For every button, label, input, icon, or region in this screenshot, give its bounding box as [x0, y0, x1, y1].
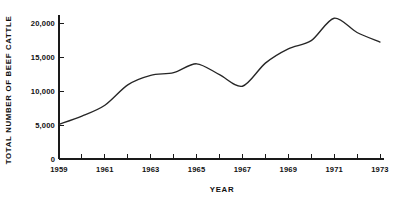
y-axis-tick-marks [59, 23, 64, 125]
x-axis-tick-marks [59, 154, 380, 159]
data-series-line [59, 18, 380, 124]
x-tick-label: 1969 [280, 165, 298, 174]
y-tick-label: 5,000 [35, 121, 55, 130]
y-axis-tick-labels: 05,00010,00015,00020,000 [31, 19, 55, 164]
y-axis-title: TOTAL NUMBER OF BEEF CATTLE [4, 16, 13, 165]
x-axis-tick-labels: 19591961196319651967196919711973 [50, 165, 389, 174]
x-tick-label: 1967 [234, 165, 252, 174]
x-tick-label: 1959 [50, 165, 68, 174]
axis-lines [59, 15, 384, 159]
y-tick-label: 20,000 [31, 19, 55, 28]
chart-container: 05,00010,00015,00020,000 195919611963196… [0, 0, 400, 197]
x-tick-label: 1963 [142, 165, 160, 174]
y-tick-label: 15,000 [31, 53, 55, 62]
x-tick-label: 1965 [188, 165, 206, 174]
line-chart: 05,00010,00015,00020,000 195919611963196… [0, 0, 400, 197]
y-tick-label: 0 [51, 155, 55, 164]
x-axis-title: YEAR [210, 185, 234, 194]
x-tick-label: 1961 [96, 165, 114, 174]
y-tick-label: 10,000 [31, 87, 55, 96]
x-tick-label: 1971 [325, 165, 343, 174]
x-tick-label: 1973 [371, 165, 389, 174]
